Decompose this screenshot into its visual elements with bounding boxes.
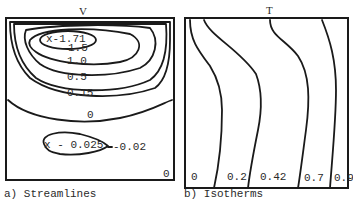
isotherm-label-0.7: 0.7 <box>304 172 324 184</box>
label-1.5: 1.5 <box>68 42 88 54</box>
isotherm-0.2 <box>190 20 222 188</box>
label-0.5: 0.5 <box>67 71 87 83</box>
isotherm-label-0: 0 <box>191 171 198 183</box>
panel-streamlines: V x-1.71 1.5 1.0 0.5 0.15 0 x - 0.025 -0… <box>6 5 174 180</box>
isotherm-label-0.42: 0.42 <box>260 171 286 183</box>
label-0.15: 0.15 <box>67 87 93 99</box>
caption-streamlines: a) Streamlines <box>4 188 96 200</box>
caption-isotherms: b) Isotherms <box>184 188 263 200</box>
isotherm-0.9 <box>322 20 336 188</box>
panel-a-frame <box>6 18 174 180</box>
isotherm-0.7 <box>270 20 308 188</box>
panel-b-title: T <box>266 4 273 16</box>
label-corner-0: 0 <box>163 168 170 180</box>
label-secondary-center: x - 0.025 <box>44 139 103 151</box>
panel-a-title: V <box>79 5 87 17</box>
label-0: 0 <box>87 109 94 121</box>
panel-isotherms: T 0 0.2 0.42 0.7 0.9 <box>185 4 353 188</box>
label-secondary: -0.02 <box>113 141 146 153</box>
isotherm-label-0.2: 0.2 <box>227 171 247 183</box>
panel-b-frame <box>185 18 348 188</box>
label-1.0: 1.0 <box>67 55 87 67</box>
isotherm-0.42 <box>204 20 261 188</box>
figure: V x-1.71 1.5 1.0 0.5 0.15 0 x - 0.025 -0… <box>0 0 353 203</box>
isotherm-label-0.9: 0.9 <box>334 172 353 184</box>
